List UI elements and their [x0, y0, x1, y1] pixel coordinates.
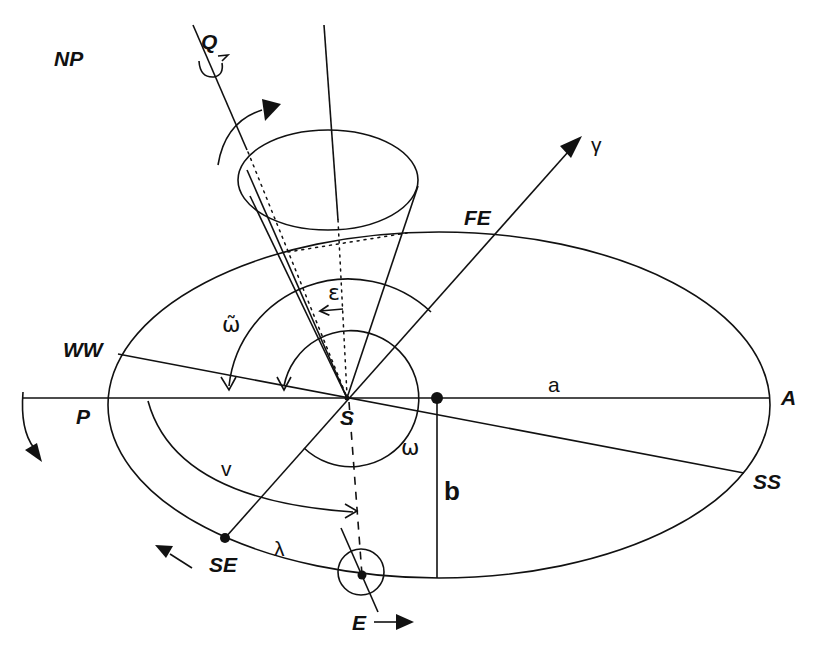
cone-hidden-axis [248, 152, 346, 395]
earth-motion-arrowhead [396, 614, 414, 630]
label-aphelion: A [780, 386, 796, 409]
orbit-ellipse [108, 232, 770, 578]
label-true-anomaly: v [221, 457, 232, 480]
label-earth: E [352, 611, 367, 634]
label-longitude-perihelion: ω̃ [222, 312, 240, 337]
ecliptic-pole-axis [324, 25, 338, 220]
orbit-center-point [431, 392, 443, 404]
label-summer-solstice: SS [753, 470, 781, 493]
earth-point [358, 571, 367, 580]
perihelion-precession-arrowhead [25, 443, 42, 462]
orbit-direction-line [170, 554, 192, 568]
label-fall-equinox: FE [464, 206, 492, 229]
obliquity-arrow [320, 309, 343, 311]
label-sun: S [340, 406, 354, 429]
cone-side-right [347, 186, 418, 398]
spring-equinox-point [220, 533, 230, 543]
perihelion-precession-arc [22, 392, 34, 448]
label-winter-solstice: WW [63, 338, 105, 361]
label-semi-minor-axis: b [444, 476, 460, 506]
label-spring-equinox: SE [209, 553, 238, 576]
label-perihelion: P [76, 405, 91, 428]
label-ecliptic-pole: Q [201, 30, 217, 53]
label-vernal-point: γ [591, 133, 602, 156]
label-north-pole: NP [54, 47, 84, 70]
label-semi-major-axis: a [548, 373, 560, 396]
label-obliquity: ε [328, 280, 340, 305]
precession-arc [218, 110, 262, 165]
equinox-line [225, 152, 568, 538]
solstice-line [118, 354, 744, 473]
spin-arrowhead [218, 55, 228, 61]
true-anomaly-arc [148, 401, 353, 512]
label-true-longitude: λ [274, 537, 285, 560]
orbit-direction-arrowhead [155, 545, 173, 558]
orbital-geometry-diagram: NP Q γ FE WW P A S SS SE E a b ε ω̃ ω v … [0, 0, 816, 648]
cone-hidden-ecliptic [288, 233, 407, 252]
precession-arrowhead [262, 99, 281, 121]
vernal-point-arrowhead [560, 136, 582, 158]
cone-hidden-center [338, 220, 347, 395]
sun-point [345, 396, 350, 401]
precession-cone-rim [238, 130, 418, 230]
label-argument-perihelion: ω [401, 435, 419, 460]
spin-arc [199, 61, 222, 77]
